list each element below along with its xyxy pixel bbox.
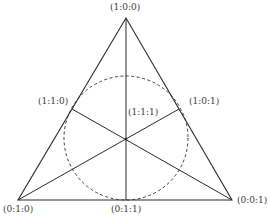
label-right-mid: (1:0:1) <box>189 97 219 106</box>
centroid-dot <box>125 138 128 141</box>
outer-triangle <box>18 18 232 200</box>
label-bottom-left: (0:1:0) <box>3 205 33 214</box>
median-from-bottom-right <box>72 109 232 200</box>
label-bottom-right: (0:0:1) <box>237 196 267 205</box>
label-centroid: (1:1:1) <box>128 108 158 117</box>
label-apex: (1:0:0) <box>110 3 140 12</box>
label-left-mid: (1:1:0) <box>38 97 68 106</box>
median-from-bottom-left <box>18 109 179 200</box>
label-bottom-mid: (0:1:1) <box>111 205 141 214</box>
